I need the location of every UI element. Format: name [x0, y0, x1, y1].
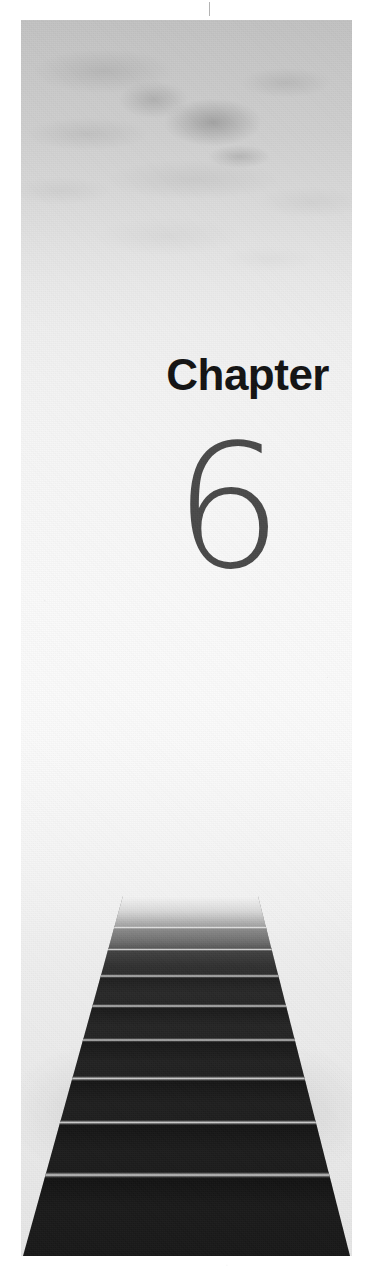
registration-tick-mark [209, 2, 210, 16]
chapter-number: 6 [21, 420, 283, 596]
stair-tread [21, 1120, 352, 1125]
chapter-opening-page: Chapter 6 [0, 0, 372, 1278]
chapter-label: Chapter [21, 352, 329, 398]
stair-tread [21, 1172, 352, 1178]
chapter-photograph: Chapter 6 [21, 20, 352, 1256]
